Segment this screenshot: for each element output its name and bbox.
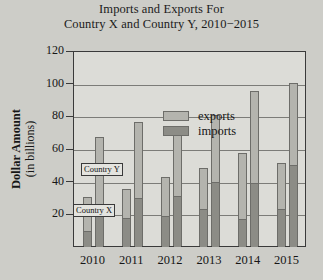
bar-segment-exports (290, 84, 297, 166)
bar-segment-imports (290, 165, 297, 247)
y-tick-label: 40 (52, 174, 64, 189)
bar-segment-exports (278, 164, 285, 210)
legend-item-imports: imports (163, 124, 236, 138)
y-tick-label: 100 (46, 76, 64, 91)
bar-segment-imports (123, 218, 130, 247)
bar-segment-exports (135, 123, 142, 198)
bar-country-x-2012 (161, 177, 170, 246)
y-axis-label-line-2: (in billions) (23, 74, 37, 224)
annotation-country-y: Country Y (81, 163, 123, 176)
chart-legend: exports imports (163, 109, 236, 139)
bar-country-y-2011 (134, 122, 143, 246)
bar-segment-imports (251, 183, 258, 247)
y-tick-label: 60 (52, 141, 64, 156)
x-tick-label-2012: 2012 (158, 253, 183, 268)
bar-group-2012 (161, 52, 182, 246)
y-tick-label: 80 (52, 108, 64, 123)
gridline-100 (74, 85, 305, 86)
bar-segment-imports (84, 231, 91, 247)
chart-title-line-2: Country X and Country Y, 2010−2015 (0, 17, 323, 32)
bar-segment-exports (200, 169, 207, 210)
bar-country-x-2014 (238, 153, 247, 246)
y-tick-mark-icon (66, 51, 73, 52)
y-tick-mark-icon (66, 181, 73, 182)
legend-swatch-exports-icon (163, 111, 189, 121)
y-tick-mark-icon (66, 149, 73, 150)
y-tick-mark-icon (66, 116, 73, 117)
plot-area: exports imports (73, 51, 306, 247)
bar-country-y-2015 (289, 83, 298, 246)
bar-segment-exports (239, 154, 246, 219)
bar-segment-imports (162, 216, 169, 247)
bar-country-x-2013 (199, 168, 208, 246)
bar-country-x-2011 (122, 189, 131, 246)
bar-country-x-2015 (277, 163, 286, 246)
bar-segment-exports (123, 190, 130, 218)
bar-country-y-2012 (173, 133, 182, 246)
gridline-60 (74, 150, 305, 151)
y-tick-label: 120 (46, 43, 64, 58)
legend-item-exports: exports (163, 109, 236, 123)
bar-country-y-2014 (250, 91, 259, 246)
bar-segment-imports (212, 182, 219, 247)
y-tick-mark-icon (66, 214, 73, 215)
bar-segment-imports (174, 196, 181, 247)
bar-country-y-2010 (95, 137, 104, 246)
bar-segment-exports (251, 92, 258, 183)
legend-swatch-imports-icon (163, 126, 189, 136)
bar-group-2015 (277, 52, 298, 246)
bar-segment-imports (278, 209, 285, 247)
bar-segment-imports (239, 219, 246, 247)
x-tick-label-2010: 2010 (80, 253, 105, 268)
bar-group-2014 (238, 52, 259, 246)
y-axis-label: Dollar Amount (in billions) (9, 74, 37, 224)
x-tick-label-2011: 2011 (119, 253, 144, 268)
bar-segment-imports (135, 198, 142, 247)
bar-group-2011 (122, 52, 143, 246)
bar-segment-exports (162, 178, 169, 216)
bar-segment-exports (174, 134, 181, 196)
bar-segment-imports (200, 209, 207, 247)
legend-label-exports: exports (198, 109, 235, 124)
x-tick-label-2014: 2014 (235, 253, 260, 268)
x-tick-label-2013: 2013 (196, 253, 221, 268)
annotation-country-x: Country X (73, 204, 115, 217)
gridline-40 (74, 183, 305, 184)
x-tick-label-2015: 2015 (274, 253, 299, 268)
chart-title: Imports and Exports For Country X and Co… (0, 2, 323, 31)
y-axis-label-line-1: Dollar Amount (9, 74, 23, 224)
bar-group-2013 (199, 52, 220, 246)
chart-title-line-1: Imports and Exports For (0, 2, 323, 17)
y-tick-label: 20 (52, 206, 64, 221)
x-axis: 201020112012201320142015 (73, 249, 306, 273)
y-tick-mark-icon (66, 83, 73, 84)
y-axis: Dollar Amount (in billions) 204060801001… (0, 51, 73, 247)
legend-label-imports: imports (198, 124, 236, 139)
chart-figure: Imports and Exports For Country X and Co… (0, 0, 323, 280)
